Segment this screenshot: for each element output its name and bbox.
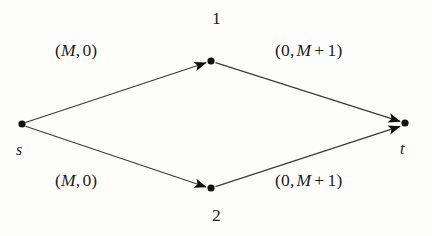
node-s-dot bbox=[18, 120, 25, 127]
paren-close: ) bbox=[336, 40, 342, 60]
cost-variable: M bbox=[297, 40, 312, 60]
node-label-s: s bbox=[16, 142, 22, 158]
capacity-value: M bbox=[61, 40, 76, 60]
cost-variable: M bbox=[297, 170, 312, 190]
plus-operator: + bbox=[314, 40, 324, 60]
cost-value: 0 bbox=[82, 170, 91, 190]
comma: , bbox=[290, 170, 295, 190]
node-label-1: 1 bbox=[212, 10, 221, 28]
paren-close: ) bbox=[336, 170, 342, 190]
node-1-dot bbox=[207, 57, 214, 64]
plus-operator: + bbox=[314, 170, 324, 190]
comma: , bbox=[76, 170, 81, 190]
node-label-2: 2 bbox=[212, 207, 221, 225]
comma: , bbox=[76, 40, 81, 60]
paren-close: ) bbox=[91, 40, 97, 60]
edge-label-s-to-2: (M,0) bbox=[55, 172, 97, 190]
flow-network-diagram: (M,0) (0,M+1) (M,0) (0,M+1) 1 2 s t bbox=[0, 0, 432, 236]
comma: , bbox=[290, 40, 295, 60]
edge-s-to-1 bbox=[26, 63, 207, 123]
capacity-value: 0 bbox=[281, 170, 290, 190]
edge-label-2-to-t: (0,M+1) bbox=[275, 172, 342, 190]
graph-canvas bbox=[0, 0, 432, 236]
node-2-dot bbox=[207, 184, 214, 191]
edge-s-to-2 bbox=[26, 126, 207, 187]
paren-close: ) bbox=[91, 170, 97, 190]
capacity-value: M bbox=[61, 170, 76, 190]
capacity-value: 0 bbox=[281, 40, 290, 60]
cost-value: 0 bbox=[82, 40, 91, 60]
node-label-t: t bbox=[400, 141, 404, 157]
edge-1-to-t bbox=[216, 63, 401, 122]
edge-label-s-to-1: (M,0) bbox=[55, 42, 97, 60]
edge-label-1-to-t: (0,M+1) bbox=[275, 42, 342, 60]
node-t-dot bbox=[401, 119, 408, 126]
